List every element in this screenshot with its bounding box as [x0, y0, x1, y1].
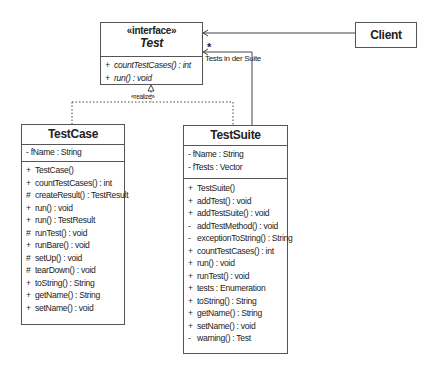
class-testsuite[interactable]: TestSuite - fName : String - fTests : Ve… — [183, 125, 288, 354]
methods-section: +TestCase() +countTestCases() : int #cre… — [22, 162, 124, 316]
association-label: Tests in der Suite — [205, 54, 261, 63]
stereotype: «interface» — [101, 25, 202, 36]
class-name: TestCase — [22, 125, 124, 145]
method: run() : void — [114, 72, 152, 83]
method: createResult() : TestResult — [35, 189, 128, 200]
method: setName() : void — [197, 320, 255, 331]
method: countTestCases() : int — [197, 245, 274, 256]
realize-label: «realize» — [131, 93, 155, 100]
method: countTestCases() : int — [114, 59, 191, 70]
method: toString() : String — [197, 295, 256, 306]
multiplicity-label: * — [207, 41, 211, 53]
interface-test[interactable]: «interface» Test +countTestCases() : int… — [100, 22, 203, 85]
class-name: Test — [101, 36, 202, 50]
method: runTest() : void — [197, 270, 249, 281]
method: tearDown() : void — [35, 264, 96, 275]
method: runBare() : void — [35, 239, 90, 250]
method: run() : void — [197, 257, 235, 268]
attributes-section: - fName : String — [22, 145, 124, 162]
method: TestCase() — [35, 164, 74, 175]
methods-section: +TestSuite() +addTest() : void +addTestS… — [184, 179, 287, 347]
attribute: fName : String — [31, 146, 82, 157]
attribute: fName : String — [193, 148, 244, 159]
method: addTestMethod() : void — [197, 220, 278, 231]
class-name: Client — [356, 23, 416, 47]
method: setName() : void — [35, 302, 93, 313]
method: warning() : Test — [197, 332, 251, 343]
method: exceptionToString() : String — [197, 232, 293, 243]
method: countTestCases() : int — [35, 177, 112, 188]
method: addTest() : void — [197, 195, 251, 206]
method: run() : void — [35, 202, 73, 213]
method: runTest() : void — [35, 227, 87, 238]
method: run() : TestResult — [35, 214, 95, 225]
client-class[interactable]: Client — [355, 22, 417, 48]
method: addTestSuite() : void — [197, 207, 269, 218]
attributes-section: - fName : String - fTests : Vector — [184, 146, 287, 179]
method: toString() : String — [35, 277, 94, 288]
method: TestSuite() — [197, 182, 235, 193]
class-testcase[interactable]: TestCase - fName : String +TestCase() +c… — [21, 124, 125, 325]
attribute: fTests : Vector — [193, 161, 243, 172]
method: setUp() : void — [35, 252, 82, 263]
class-name: TestSuite — [184, 126, 287, 146]
method: getName() : String — [197, 307, 262, 318]
method: tests : Enumeration — [197, 282, 266, 293]
methods-section: +countTestCases() : int +run() : void — [101, 57, 202, 86]
method: getName() : String — [35, 289, 100, 300]
